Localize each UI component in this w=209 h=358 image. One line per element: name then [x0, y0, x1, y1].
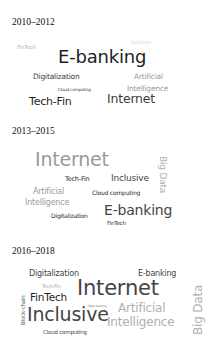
word-cloud-computing: Cloud computing: [43, 330, 87, 336]
word-digitalization: Digitalization: [29, 270, 79, 278]
word-intelligence: Intelligence: [107, 316, 174, 328]
word-inclusive: Inclusive: [27, 305, 109, 324]
word-intelligence: Intelligence: [25, 199, 69, 207]
word-artificial: Artificial: [134, 73, 163, 81]
word-inclusive: Inclusive: [111, 174, 149, 183]
word-inclusive: Inclusive: [131, 40, 151, 45]
word-fintech: FinTech: [107, 221, 126, 227]
word-cloud-panel-2010-2012: 2010–2012 Inclusive FinTech E-banking Di…: [0, 0, 209, 112]
word-cloud-panel-2016-2018: 2016–2018 Digitalization E-banking Tech-…: [0, 230, 209, 358]
period-label: 2010–2012: [12, 17, 55, 27]
word-internet: Internet: [107, 93, 155, 106]
period-label: 2016–2018: [12, 246, 55, 256]
word-tech-fin: Tech-Fin: [29, 96, 72, 107]
word-cloud-computing: Cloud computing: [92, 190, 140, 196]
word-cloud-panel-2013-2015: 2013–2015 Internet Big Data Tech-Fin Inc…: [0, 112, 209, 230]
word-big-data: Big Data: [192, 285, 204, 335]
word-artificial: Artificial: [118, 302, 165, 314]
word-digitalization: Digitalization: [51, 213, 88, 219]
word-internet: Internet: [35, 150, 109, 169]
word-internet: Internet: [77, 278, 159, 299]
word-digitalization: Digitalization: [33, 73, 80, 81]
word-tech-fin: Tech-Fin: [65, 176, 90, 183]
word-tech-fin: Tech-Fin: [42, 284, 60, 289]
word-cloud-computing: Cloud computing: [58, 88, 91, 92]
word-e-banking: E-banking: [58, 48, 146, 66]
word-block-chain: Block-chain: [21, 295, 27, 325]
word-fintech: FinTech: [30, 292, 67, 303]
word-big-data: Big Data: [158, 156, 167, 193]
word-e-banking: E-banking: [104, 203, 172, 217]
word-artificial: Artificial: [33, 188, 64, 196]
word-fintech: FinTech: [17, 45, 36, 51]
period-label: 2013–2015: [12, 126, 55, 136]
